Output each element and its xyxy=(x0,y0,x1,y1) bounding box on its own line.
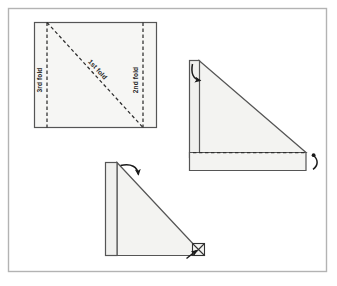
figure-root: 3rd fold 1st fold 2nd fold xyxy=(0,0,337,286)
bottom-flap-arrow-tip-icon xyxy=(312,153,316,157)
left-flap-panel2 xyxy=(190,61,200,158)
bottom-flap-panel2 xyxy=(190,153,307,171)
panel-flat-sheet: 3rd fold 1st fold 2nd fold xyxy=(35,23,157,128)
fold-label-3rd: 3rd fold xyxy=(36,68,43,93)
left-flap-panel3 xyxy=(106,163,118,256)
fold-label-2nd: 2nd fold xyxy=(132,67,139,93)
folding-diagram-svg: 3rd fold 1st fold 2nd fold xyxy=(0,0,337,286)
